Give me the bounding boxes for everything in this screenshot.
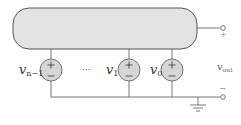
label-source-0: v0 xyxy=(150,63,162,78)
voltage-source-1 xyxy=(118,59,140,81)
label-source-1: v1 xyxy=(106,63,118,78)
output-plus-sign: + xyxy=(220,31,227,39)
label-sub: out xyxy=(223,66,233,73)
output-terminal-minus xyxy=(221,95,226,100)
label-sub: 1 xyxy=(113,69,118,78)
voltage-source-0 xyxy=(161,59,183,81)
label-source-n-1: vn−1 xyxy=(19,63,43,78)
ellipsis: ··· xyxy=(82,66,91,75)
label-sub: n−1 xyxy=(26,69,43,78)
network-block xyxy=(13,8,197,49)
ground-icon xyxy=(190,97,206,111)
output-minus-sign: − xyxy=(219,84,227,93)
label-sub: 0 xyxy=(157,69,162,78)
label-vout: vout xyxy=(217,62,233,73)
